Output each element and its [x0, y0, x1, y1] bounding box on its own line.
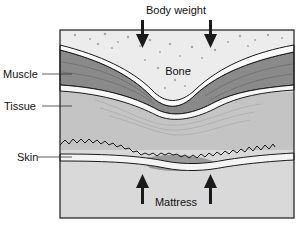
tissue-label: Tissue [4, 100, 36, 112]
skin-label: Skin [17, 151, 38, 163]
mattress-label: Mattress [155, 196, 198, 208]
body-weight-label: Body weight [146, 4, 206, 16]
pressure-diagram: Body weight Bone Muscle Tissue Skin Matt… [0, 0, 296, 225]
muscle-label: Muscle [3, 68, 38, 80]
bone-label: Bone [165, 65, 191, 77]
